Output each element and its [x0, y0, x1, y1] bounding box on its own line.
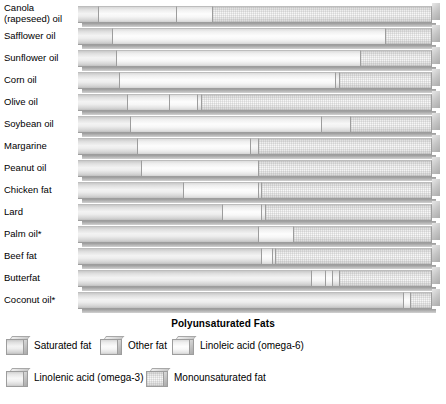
bar-segment-linoleic [259, 226, 294, 243]
bar-shadow [82, 133, 436, 137]
bar-shadow [82, 221, 436, 225]
bar-segment-saturated [78, 182, 184, 199]
chart-row: Beef fat [0, 248, 446, 270]
bar-shadow [82, 309, 436, 313]
legend-item-saturated[interactable]: Saturated fat [6, 336, 91, 355]
chart-row: Canola(rapeseed) oil [0, 6, 446, 28]
bar-segment-saturated [78, 292, 404, 309]
legend-label: Saturated fat [34, 340, 91, 351]
bar-right-face [432, 157, 440, 174]
legend-label: Monounsaturated fat [174, 372, 266, 383]
bar-segment-saturated [78, 138, 138, 155]
legend-item-linoleic[interactable]: Linoleic acid (omega-6) [172, 336, 304, 355]
bar-segment-mono [202, 94, 432, 111]
bar-segment-linoleic [120, 72, 336, 89]
bar-right-face [432, 267, 440, 284]
legend-swatch-linoleic-icon [172, 336, 194, 355]
stacked-bar-chart: Canola(rapeseed) oilSafflower oilSunflow… [0, 0, 446, 404]
chart-row: Soybean oil [0, 116, 446, 138]
bar-shadow [82, 199, 436, 203]
bar-segment-linolenic [251, 138, 259, 155]
bar-segment-mono [351, 116, 432, 133]
category-label: Corn oil [4, 75, 74, 86]
bar-segment-saturated [78, 72, 120, 89]
bar-shadow [82, 177, 436, 181]
bar-segment-linoleic [142, 160, 259, 177]
bar-segment-saturated [78, 28, 113, 45]
bar-right-face [432, 223, 440, 240]
chart-legend: Saturated fatOther fatLinoleic acid (ome… [0, 336, 446, 400]
bar-segment-mono [213, 6, 432, 23]
category-label: Lard [4, 207, 74, 218]
bar-right-face [432, 179, 440, 196]
legend-item-mono[interactable]: Monounsaturated fat [146, 368, 266, 387]
legend-swatch-mono-icon [146, 368, 168, 387]
bar-segment-saturated [78, 6, 99, 23]
category-label: Beef fat [4, 251, 74, 262]
legend-row: Saturated fatOther fatLinoleic acid (ome… [0, 336, 446, 368]
bar-shadow [82, 265, 436, 269]
category-label: Margarine [4, 141, 74, 152]
bar-segment-saturated [78, 204, 223, 221]
chart-row: Safflower oil [0, 28, 446, 50]
bar-right-face [432, 25, 440, 42]
bar-segment-mono [386, 28, 432, 45]
bar-segment-saturated [78, 270, 312, 287]
bar-segment-saturated [78, 226, 259, 243]
x-axis-title: Polyunsaturated Fats [0, 318, 446, 329]
bar-segment-other [312, 270, 326, 287]
chart-row: Peanut oil [0, 160, 446, 182]
bar-right-face [432, 135, 440, 152]
bar-shadow [82, 23, 436, 27]
bar-segment-saturated [78, 160, 142, 177]
legend-swatch-other-icon [100, 336, 122, 355]
bar-segment-saturated [78, 116, 131, 133]
chart-row: Coconut oil* [0, 292, 446, 314]
category-label: Olive oil [4, 97, 74, 108]
chart-row: Chicken fat [0, 182, 446, 204]
legend-swatch-saturated-icon [6, 336, 28, 355]
legend-label: Other fat [128, 340, 167, 351]
category-label: Butterfat [4, 273, 74, 284]
bar-right-face [432, 201, 440, 218]
bar-right-face [432, 3, 440, 20]
chart-row: Olive oil [0, 94, 446, 116]
bar-segment-mono [294, 226, 432, 243]
category-label: Chicken fat [4, 185, 74, 196]
chart-row: Butterfat [0, 270, 446, 292]
bar-right-face [432, 47, 440, 64]
bar-segment-mono [411, 292, 432, 309]
bar-segment-linoleic [262, 248, 273, 265]
category-label: Soybean oil [4, 119, 74, 130]
bar-segment-linoleic [113, 28, 386, 45]
bar-shadow [82, 155, 436, 159]
category-label: Safflower oil [4, 31, 74, 42]
bar-segment-linoleic [131, 116, 322, 133]
bar-shadow [82, 45, 436, 49]
bar-segment-mono [259, 160, 432, 177]
chart-row: Margarine [0, 138, 446, 160]
chart-row: Lard [0, 204, 446, 226]
bar-segment-saturated [78, 248, 262, 265]
bar-shadow [82, 243, 436, 247]
bar-segment-linoleic [404, 292, 411, 309]
legend-row: Linolenic acid (omega-3)Monounsaturated … [0, 368, 446, 400]
legend-item-linolenic[interactable]: Linolenic acid (omega-3) [6, 368, 144, 387]
bar-shadow [82, 67, 436, 71]
bar-segment-linoleic [117, 50, 361, 67]
bar-segment-linolenic [333, 270, 340, 287]
bar-segment-mono [266, 204, 432, 221]
chart-row: Sunflower oil [0, 50, 446, 72]
bar-segment-saturated [78, 50, 117, 67]
bar-shadow [82, 287, 436, 291]
bar-shadow [82, 111, 436, 115]
chart-row: Palm oil* [0, 226, 446, 248]
legend-label: Linolenic acid (omega-3) [34, 372, 144, 383]
bar-right-face [432, 69, 440, 86]
bar-segment-other [128, 94, 170, 111]
bar-segment-saturated [78, 94, 128, 111]
legend-swatch-linolenic-icon [6, 368, 28, 387]
bar-shadow [82, 89, 436, 93]
bar-right-face [432, 289, 440, 306]
legend-item-other[interactable]: Other fat [100, 336, 167, 355]
